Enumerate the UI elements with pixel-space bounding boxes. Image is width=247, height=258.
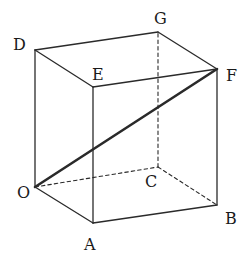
edge-oa: [35, 187, 93, 223]
vertex-label-e: E: [92, 65, 104, 84]
edge-ab: [93, 205, 217, 223]
vertex-label-a: A: [83, 235, 96, 254]
vertex-label-d: D: [13, 35, 26, 54]
vertex-label-o: O: [17, 183, 30, 202]
edge-de: [35, 50, 93, 87]
cube-diagram: D G E F O C B A: [0, 0, 247, 258]
edge-ef: [93, 69, 217, 87]
hidden-edge-oc: [35, 167, 158, 187]
edge-gf: [158, 32, 217, 69]
vertex-label-b: B: [225, 209, 237, 228]
vertex-label-c: C: [145, 172, 157, 191]
hidden-edge-cb: [158, 167, 217, 205]
edge-dg: [35, 32, 158, 50]
vertex-labels: D G E F O C B A: [13, 9, 237, 254]
diagonal-of: [35, 69, 217, 187]
cube-edges: [35, 32, 217, 223]
vertex-label-f: F: [226, 66, 237, 85]
vertex-label-g: G: [154, 9, 167, 28]
